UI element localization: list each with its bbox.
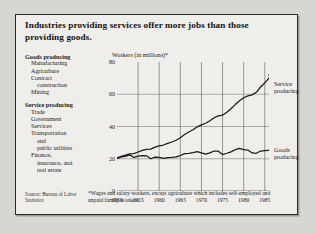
- category-item: construction: [25, 82, 97, 89]
- category-item: Mining: [25, 89, 97, 96]
- category-item: public utilities: [25, 145, 97, 152]
- series-line-service: [117, 78, 269, 158]
- y-axis-title: Workers (in millions)*: [112, 51, 168, 58]
- y-tick-label: 60: [109, 91, 115, 97]
- category-item: Transportation: [25, 130, 97, 137]
- category-group: Service producingTradeGovernmentServices…: [25, 101, 97, 174]
- category-item: Manufacturing: [25, 60, 97, 67]
- category-item: and: [25, 138, 97, 145]
- figure-panel: Industries providing services offer more…: [15, 14, 298, 215]
- category-group-heading: Service producing: [25, 101, 97, 108]
- y-axis-tick-labels: 020406080: [100, 58, 115, 195]
- series-label-service: Service producing: [274, 81, 299, 95]
- y-tick-label: 40: [109, 124, 115, 130]
- category-item: Government: [25, 116, 97, 123]
- y-tick-label: 20: [109, 156, 115, 162]
- series-label-goods-line1: Goods: [274, 147, 299, 154]
- source-note: Source: Bureau of Labor Statistics: [25, 191, 81, 203]
- series-label-goods-line2: producing: [274, 154, 299, 161]
- category-item: insurance, and: [25, 160, 97, 167]
- series-label-service-line2: producing: [274, 88, 299, 95]
- category-item: Agriculture: [25, 68, 97, 75]
- category-legend: Goods producingManufacturingAgricultureC…: [25, 53, 97, 179]
- category-group: Goods producingManufacturingAgricultureC…: [25, 53, 97, 97]
- category-item: real estate: [25, 167, 97, 174]
- series-line-goods: [117, 148, 269, 158]
- chart-title: Industries providing services offer more…: [25, 20, 275, 43]
- footnote: *Wages and salary workers, except agricu…: [88, 190, 284, 204]
- series-label-goods: Goods producing: [274, 147, 299, 161]
- category-item: Finance,: [25, 152, 97, 159]
- series-label-service-line1: Service: [274, 81, 299, 88]
- category-item: Contract: [25, 75, 97, 82]
- y-tick-label: 80: [109, 59, 115, 65]
- category-group-heading: Goods producing: [25, 53, 97, 60]
- category-item: Services: [25, 123, 97, 130]
- category-item: Trade: [25, 109, 97, 116]
- chart-plot-area: [117, 62, 269, 191]
